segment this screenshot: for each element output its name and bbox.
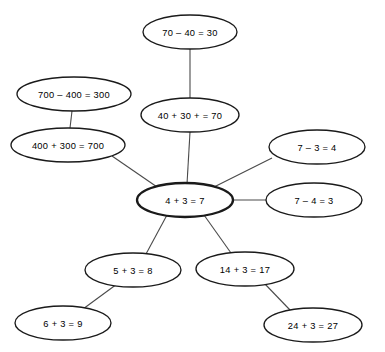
graph-node[interactable]: 7 – 4 = 3 (266, 183, 362, 217)
node-label: 6 + 3 = 9 (43, 319, 82, 329)
graph-node[interactable]: 4 + 3 = 7 (137, 183, 233, 217)
node-label: 7 – 3 = 4 (297, 143, 336, 153)
graph-node[interactable]: 70 – 40 = 30 (143, 15, 237, 49)
graph-node[interactable]: 40 + 30 + = 70 (141, 98, 239, 132)
graph-node[interactable]: 400 + 300 = 700 (11, 128, 125, 162)
nodes-layer: 70 – 40 = 30700 – 400 = 30040 + 30 + = 7… (11, 15, 365, 342)
node-label: 4 + 3 = 7 (165, 196, 204, 206)
node-label: 24 + 3 = 27 (288, 321, 338, 331)
node-label: 5 + 3 = 8 (113, 266, 152, 276)
node-label: 700 – 400 = 300 (38, 90, 110, 100)
graph-node[interactable]: 6 + 3 = 9 (15, 306, 111, 340)
graph-edge (112, 156, 160, 189)
graph-node[interactable]: 14 + 3 = 17 (196, 252, 294, 286)
node-label: 40 + 30 + = 70 (158, 111, 222, 121)
graph-node[interactable]: 7 – 3 = 4 (269, 130, 365, 164)
graph-node[interactable]: 24 + 3 = 27 (264, 308, 362, 342)
node-label: 400 + 300 = 700 (32, 141, 104, 151)
diagram-canvas: 70 – 40 = 30700 – 400 = 30040 + 30 + = 7… (0, 0, 385, 352)
graph-edge (187, 132, 190, 184)
graph-edge (210, 158, 272, 189)
node-label: 70 – 40 = 30 (162, 28, 218, 38)
graph-edge (146, 215, 167, 254)
graph-edge (264, 283, 290, 310)
graph-node[interactable]: 5 + 3 = 8 (85, 253, 181, 287)
graph-svg: 70 – 40 = 30700 – 400 = 30040 + 30 + = 7… (0, 0, 385, 352)
graph-edge (83, 284, 117, 309)
node-label: 7 – 4 = 3 (294, 196, 333, 206)
graph-edge (204, 215, 231, 253)
node-label: 14 + 3 = 17 (220, 265, 270, 275)
graph-edge (70, 111, 72, 128)
graph-node[interactable]: 700 – 400 = 300 (17, 77, 131, 111)
